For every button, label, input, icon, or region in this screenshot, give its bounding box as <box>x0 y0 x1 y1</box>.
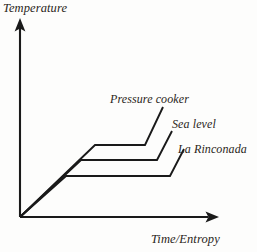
y-axis-label: Temperature <box>3 1 67 16</box>
curve-sea-level <box>20 131 172 217</box>
plot-canvas <box>0 0 257 252</box>
curve-label-sea-level: Sea level <box>172 117 216 132</box>
curve-pressure-cooker <box>20 107 163 217</box>
curve-label-la-rinconada: La Rinconada <box>178 142 247 157</box>
curve-label-pressure-cooker: Pressure cooker <box>110 92 189 107</box>
x-axis-label: Time/Entropy <box>151 232 220 247</box>
heating-curve-figure: Temperature Time/Entropy Pressure cooker… <box>0 0 257 252</box>
